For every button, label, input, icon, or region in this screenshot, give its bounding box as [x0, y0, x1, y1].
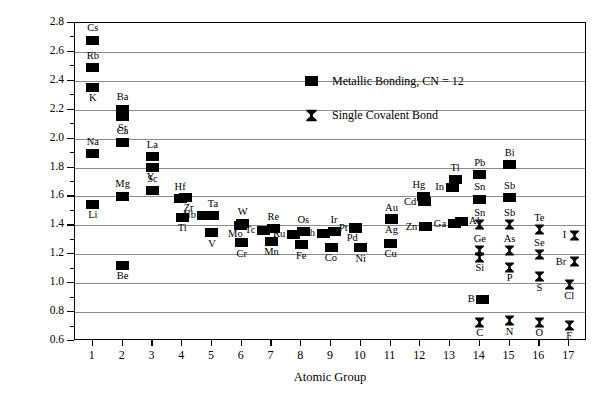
point-label-pd: Pd	[347, 233, 358, 243]
point-label-se: Se	[534, 238, 545, 248]
metallic-marker-co	[325, 243, 338, 252]
metallic-marker-nb	[197, 211, 210, 220]
point-label-i: I	[563, 230, 567, 240]
point-label-pb: Pb	[474, 158, 485, 168]
point-label-cs: Cs	[87, 23, 98, 33]
point-label-sn: Sn	[474, 208, 485, 218]
point-label-in: In	[435, 182, 444, 192]
x-tick-mark	[360, 340, 361, 346]
y-tick-label: 2.0	[30, 132, 64, 144]
point-label-ti: Ti	[178, 223, 187, 233]
point-label-p: P	[507, 273, 513, 283]
x-tick-mark	[390, 340, 391, 346]
y-tick-label: 0.8	[30, 305, 64, 317]
point-label-cr: Cr	[236, 249, 247, 259]
gridline	[75, 283, 585, 284]
point-label-rb: Rb	[87, 51, 99, 61]
point-label-sb: Sb	[504, 181, 515, 191]
point-label-zn: Zn	[406, 222, 418, 232]
x-tick-mark	[330, 340, 331, 346]
y-tick-label: 2.6	[30, 45, 64, 57]
y-tick-mark	[67, 311, 74, 312]
chart-root: Atomic Radius (Å) 0.60.81.01.21.41.61.82…	[0, 0, 616, 397]
gridline	[75, 52, 585, 53]
x-tick-label: 1	[77, 348, 107, 363]
filled-square-icon	[300, 76, 322, 86]
metallic-marker-bi	[503, 160, 516, 169]
covalent-marker-s	[534, 271, 545, 282]
point-label-as: As	[504, 234, 516, 244]
covalent-marker-sb	[504, 219, 515, 230]
covalent-marker-te	[534, 224, 545, 235]
metallic-marker-fe	[295, 240, 308, 249]
covalent-marker-i	[569, 230, 580, 241]
point-label-na: Na	[87, 137, 99, 147]
point-label-tl: Tl	[450, 163, 459, 173]
metallic-marker-be	[116, 261, 129, 270]
x-tick-label: 16	[523, 348, 553, 363]
x-tick-mark	[92, 340, 93, 346]
covalent-marker-sn	[474, 219, 485, 230]
point-label-ru: Ru	[273, 229, 285, 239]
metallic-marker-b	[476, 295, 489, 304]
point-label-b: B	[468, 294, 475, 304]
x-tick-label: 17	[553, 348, 583, 363]
x-tick-label: 10	[345, 348, 375, 363]
metallic-marker-ca	[116, 138, 129, 147]
point-label-sn: Sn	[474, 182, 485, 192]
y-tick-label: 2.2	[30, 103, 64, 115]
x-tick-label: 5	[196, 348, 226, 363]
metallic-marker-la	[146, 152, 159, 161]
point-label-ga: Ga	[434, 219, 446, 229]
point-label-mg: Mg	[115, 179, 130, 189]
point-label-te: Te	[534, 213, 544, 223]
y-tick-label: 1.0	[30, 276, 64, 288]
x-tick-label: 9	[315, 348, 345, 363]
y-tick-mark	[67, 340, 74, 341]
legend-item-covalent: Single Covalent Bond	[300, 104, 464, 126]
y-tick-mark	[67, 253, 74, 254]
point-label-os: Os	[297, 215, 309, 225]
y-tick-label: 0.6	[30, 334, 64, 346]
x-tick-mark	[479, 340, 480, 346]
metallic-marker-k	[86, 83, 99, 92]
metallic-marker-ru	[287, 230, 300, 239]
y-tick-label: 1.4	[30, 218, 64, 230]
point-label-ta: Ta	[208, 199, 218, 209]
x-tick-mark	[449, 340, 450, 346]
point-label-au: Au	[385, 203, 398, 213]
y-tick-label: 1.2	[30, 247, 64, 259]
point-label-ir: Ir	[331, 215, 338, 225]
metallic-marker-pb	[473, 170, 486, 179]
x-tick-mark	[181, 340, 182, 346]
metallic-marker-al	[455, 217, 468, 226]
metallic-marker-sb	[503, 193, 516, 202]
point-label-co: Co	[325, 253, 337, 263]
metallic-marker-ni	[354, 243, 367, 252]
chart-legend: Metallic Bonding, CN = 12 Single Covalen…	[300, 70, 464, 138]
covalent-marker-si	[474, 252, 485, 263]
metallic-marker-li	[86, 200, 99, 209]
metallic-marker-sr	[116, 112, 129, 121]
x-tick-label: 11	[375, 348, 405, 363]
metallic-marker-cu	[384, 239, 397, 248]
x-axis-label: Atomic Group	[74, 370, 586, 385]
point-label-bi: Bi	[505, 148, 515, 158]
legend-label-covalent: Single Covalent Bond	[332, 108, 438, 123]
x-tick-mark	[300, 340, 301, 346]
x-tick-label: 6	[226, 348, 256, 363]
point-label-n: N	[506, 327, 514, 337]
covalent-marker-br	[569, 256, 580, 267]
point-label-mn: Mn	[264, 247, 279, 257]
covalent-marker-n	[504, 315, 515, 326]
metallic-marker-sn	[473, 195, 486, 204]
point-label-fe: Fe	[296, 251, 307, 261]
plot-area: CsRbKNaLiBaSrCaMgBeLaYScHfZrTiTaNbVWMoCr…	[74, 22, 586, 340]
covalent-marker-o	[534, 317, 545, 328]
point-label-sc: Sc	[147, 174, 158, 184]
x-tick-label: 4	[166, 348, 196, 363]
legend-item-metallic: Metallic Bonding, CN = 12	[300, 70, 464, 92]
point-label-tc: Tc	[245, 225, 255, 235]
point-label-ni: Ni	[356, 254, 367, 264]
point-label-hg: Hg	[412, 180, 425, 190]
